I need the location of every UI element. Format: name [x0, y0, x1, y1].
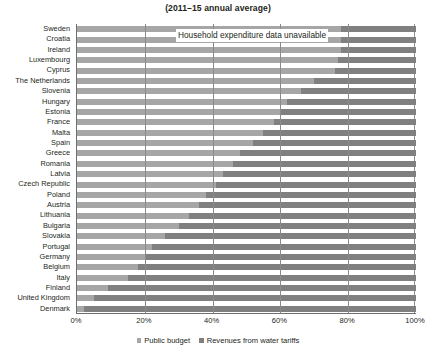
category-label: Ireland [0, 45, 70, 55]
stacked-bar [77, 182, 416, 188]
bar-segment-water-tariffs [94, 295, 416, 301]
gridline-60 [280, 24, 281, 314]
bar-segment-public-budget [77, 306, 84, 312]
legend-swatch-icon-public-budget [137, 338, 142, 343]
bar-row [77, 169, 416, 179]
bar-segment-water-tariffs [189, 213, 416, 219]
bar-segment-water-tariffs [263, 130, 416, 136]
category-label: Bulgaria [0, 221, 70, 231]
bar-segment-water-tariffs [206, 192, 416, 198]
category-label: Finland [0, 283, 70, 293]
stacked-bar [77, 275, 416, 281]
bar-segment-public-budget [77, 192, 206, 198]
bar-segment-public-budget [77, 202, 199, 208]
x-tick-label-100: 100% [405, 316, 424, 325]
stacked-bar [77, 192, 416, 198]
bar-row [77, 273, 416, 283]
bar-segment-public-budget [77, 223, 179, 229]
category-label: Estonia [0, 107, 70, 117]
category-label: Hungary [0, 97, 70, 107]
plot-area [76, 24, 415, 314]
stacked-bar [77, 68, 416, 74]
category-label: Slovakia [0, 231, 70, 241]
category-label: Germany [0, 252, 70, 262]
bar-segment-water-tariffs [341, 37, 416, 43]
category-label: United Kingdom [0, 293, 70, 303]
stacked-bar [77, 99, 416, 105]
stacked-bar [77, 202, 416, 208]
bar-segment-public-budget [77, 109, 280, 115]
bar-segment-water-tariffs [301, 88, 416, 94]
stacked-bar [77, 47, 416, 53]
category-label: Greece [0, 148, 70, 158]
bar-segment-water-tariffs [84, 306, 416, 312]
bar-segment-water-tariffs [216, 182, 416, 188]
stacked-bar [77, 295, 416, 301]
stacked-bar [77, 254, 416, 260]
bar-segment-water-tariffs [253, 140, 416, 146]
bar-segment-public-budget [77, 130, 263, 136]
bar-rows [77, 24, 416, 314]
x-tick-label-0: 0% [71, 316, 82, 325]
bar-segment-water-tariffs [274, 119, 416, 125]
bar-segment-public-budget [77, 140, 253, 146]
annotation-household-expenditure: Household expenditure data unavailable [176, 29, 328, 42]
x-tick-label-80: 80% [340, 316, 355, 325]
stacked-bar [77, 306, 416, 312]
bar-segment-water-tariffs [287, 99, 416, 105]
bar-segment-water-tariffs [314, 78, 416, 84]
stacked-bar [77, 161, 416, 167]
category-label: Spain [0, 138, 70, 148]
bar-segment-public-budget [77, 99, 287, 105]
category-label: Lithuania [0, 210, 70, 220]
category-label: Austria [0, 200, 70, 210]
bar-segment-water-tariffs [128, 275, 416, 281]
stacked-bar [77, 57, 416, 63]
bar-segment-water-tariffs [152, 244, 416, 250]
stacked-bar-chart: (2011–15 annual average) SwedenCroatiaIr… [0, 0, 436, 355]
stacked-bar [77, 150, 416, 156]
bar-row [77, 45, 416, 55]
category-label: Italy [0, 273, 70, 283]
category-label: Croatia [0, 34, 70, 44]
legend-label-public-budget: Public budget [144, 336, 190, 345]
bar-row [77, 159, 416, 169]
stacked-bar [77, 140, 416, 146]
bar-row [77, 221, 416, 231]
stacked-bar [77, 88, 416, 94]
gridline-20 [145, 24, 146, 314]
bar-row [77, 200, 416, 210]
bar-segment-water-tariffs [233, 161, 416, 167]
x-tick-label-40: 40% [204, 316, 219, 325]
stacked-bar [77, 119, 416, 125]
category-label: The Netherlands [0, 76, 70, 86]
stacked-bar [77, 264, 416, 270]
category-label: France [0, 117, 70, 127]
category-label: Sweden [0, 24, 70, 34]
bar-row [77, 179, 416, 189]
bar-segment-water-tariffs [240, 150, 416, 156]
chart-title: (2011–15 annual average) [0, 3, 436, 13]
stacked-bar [77, 285, 416, 291]
bar-row [77, 117, 416, 127]
bar-row [77, 65, 416, 75]
category-label: Malta [0, 128, 70, 138]
bar-segment-public-budget [77, 171, 223, 177]
gridline-40 [213, 24, 214, 314]
bar-segment-public-budget [77, 119, 274, 125]
bar-segment-water-tariffs [165, 233, 416, 239]
category-label: Latvia [0, 169, 70, 179]
bar-segment-public-budget [77, 295, 94, 301]
stacked-bar [77, 130, 416, 136]
category-label: Portugal [0, 242, 70, 252]
bar-segment-public-budget [77, 254, 145, 260]
bar-segment-public-budget [77, 150, 240, 156]
bar-segment-public-budget [77, 213, 189, 219]
bar-segment-public-budget [77, 161, 233, 167]
category-label: Belgium [0, 262, 70, 272]
bar-segment-public-budget [77, 182, 216, 188]
bar-segment-public-budget [77, 275, 128, 281]
stacked-bar [77, 244, 416, 250]
legend-item-water-tariffs: Revenues from water tariffs [199, 336, 299, 345]
bar-segment-water-tariffs [335, 68, 416, 74]
